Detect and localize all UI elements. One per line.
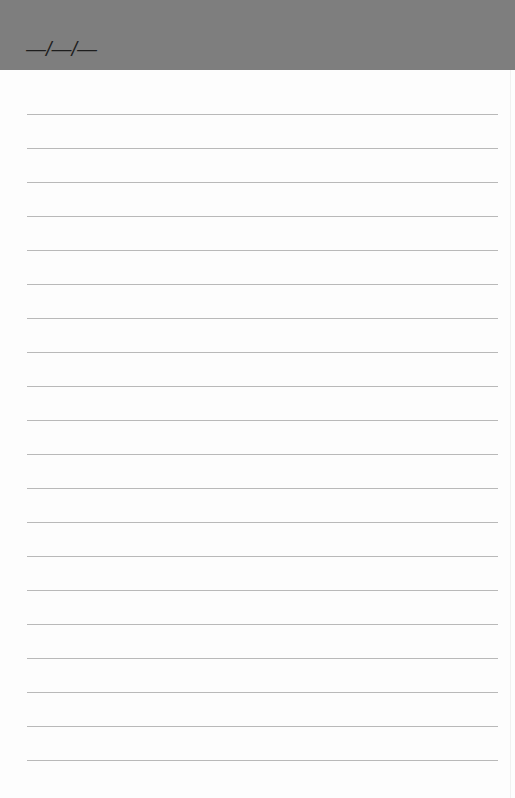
- ruled-line[interactable]: [27, 420, 498, 421]
- ruled-line[interactable]: [27, 386, 498, 387]
- ruled-line[interactable]: [27, 250, 498, 251]
- ruled-line[interactable]: [27, 216, 498, 217]
- ruled-line[interactable]: [27, 692, 498, 693]
- ruled-line[interactable]: [27, 726, 498, 727]
- ruled-line[interactable]: [27, 454, 498, 455]
- ruled-line[interactable]: [27, 522, 498, 523]
- ruled-line[interactable]: [27, 318, 498, 319]
- ruled-line[interactable]: [27, 182, 498, 183]
- ruled-line[interactable]: [27, 114, 498, 115]
- notepad-header: —/—/—: [0, 0, 515, 70]
- ruled-line[interactable]: [27, 760, 498, 761]
- ruled-line[interactable]: [27, 658, 498, 659]
- ruled-line[interactable]: [27, 556, 498, 557]
- ruled-line[interactable]: [27, 590, 498, 591]
- ruled-line[interactable]: [27, 624, 498, 625]
- ruled-sheet: [0, 70, 515, 798]
- ruled-line[interactable]: [27, 352, 498, 353]
- ruled-line[interactable]: [27, 148, 498, 149]
- ruled-line[interactable]: [27, 488, 498, 489]
- date-field[interactable]: —/—/—: [26, 38, 97, 61]
- sheet-edge: [510, 70, 511, 798]
- ruled-line[interactable]: [27, 284, 498, 285]
